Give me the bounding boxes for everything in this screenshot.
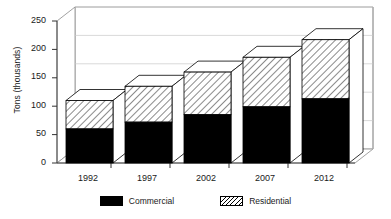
y-tick-label-0: 0: [20, 157, 46, 167]
plot-area: [0, 0, 391, 219]
y-tick-label-200: 200: [20, 43, 46, 53]
x-tick-label-2007: 2007: [242, 173, 288, 183]
x-tick-label-1992: 1992: [65, 173, 111, 183]
chart-legend: Commercial Residential: [0, 196, 391, 206]
x-tick-label-2002: 2002: [183, 173, 229, 183]
legend-swatch-commercial-icon: [100, 196, 123, 206]
x-tick-label-1997: 1997: [124, 173, 170, 183]
legend-item-commercial: Commercial: [100, 196, 174, 206]
y-tick-label-150: 150: [20, 71, 46, 81]
y-tick-label-100: 100: [20, 100, 46, 110]
y-tick-label-50: 50: [20, 128, 46, 138]
bar-group-1992: [66, 90, 127, 164]
bar-group-2002: [184, 61, 245, 163]
chart-figure: Tons (thousands): [0, 0, 391, 219]
bar-group-2007: [243, 46, 304, 163]
legend-item-residential: Residential: [220, 196, 291, 206]
x-axis-ticks: [111, 163, 347, 168]
legend-label-commercial: Commercial: [129, 196, 174, 206]
bar-group-1997: [125, 75, 186, 163]
x-tick-label-2012: 2012: [301, 173, 347, 183]
bar-group-2012: [302, 29, 363, 163]
y-axis-ticks: [52, 21, 57, 163]
legend-swatch-residential-icon: [220, 196, 243, 206]
y-tick-label-250: 250: [20, 15, 46, 25]
legend-label-residential: Residential: [249, 196, 291, 206]
